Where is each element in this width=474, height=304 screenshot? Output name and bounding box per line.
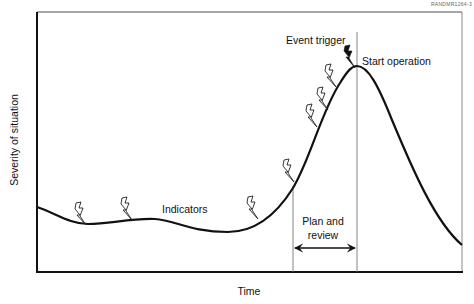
- report-id: RANDMR1264-3: [431, 1, 472, 7]
- indicators-label: Indicators: [162, 203, 208, 215]
- indicator-icon: [121, 197, 132, 220]
- start-operation-label: Start operation: [362, 55, 431, 67]
- x-axis-label: Time: [238, 285, 261, 297]
- plan-review-label-2: review: [308, 229, 339, 241]
- indicator-icon: [317, 87, 328, 110]
- event-trigger-icon: [344, 45, 355, 68]
- indicator-icon: [306, 104, 317, 127]
- plan-review-label-1: Plan and: [302, 215, 344, 227]
- severity-time-diagram: Plan and review Indicators Event trigger…: [0, 0, 474, 304]
- indicator-icon: [283, 159, 294, 182]
- event-trigger-label: Event trigger: [286, 34, 346, 46]
- y-axis-label: Severity of situation: [8, 94, 20, 186]
- severity-curve: [37, 66, 462, 245]
- indicator-icon: [247, 196, 258, 219]
- indicator-icon: [325, 64, 336, 87]
